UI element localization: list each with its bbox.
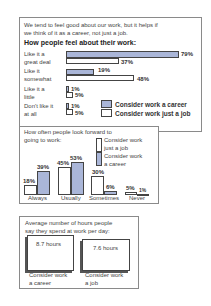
pct-sometimes-job: 30% [92, 169, 104, 176]
legend-career-swatch [101, 100, 112, 108]
hours-job-value: 7.6 hours [93, 245, 118, 252]
bar-great-deal-career [66, 51, 179, 58]
pct-little-job: 5% [75, 92, 84, 99]
pct-always-career: 39% [37, 164, 49, 171]
legend-career-label: Consider work a career [115, 101, 187, 108]
bar-usually-career [71, 162, 84, 195]
legend2-career-swatch [96, 152, 102, 166]
legend2-career-label-1: Consider work [104, 153, 142, 160]
hours-job-box [82, 239, 130, 271]
legend2-job-label-2: just a job [104, 145, 128, 152]
legend-job-swatch [101, 109, 112, 117]
pct-usually-career: 53% [70, 155, 82, 162]
legend2-job-label-1: Consider work [104, 137, 142, 144]
row3-label-1: Like it a [24, 86, 45, 93]
pct-usually-job: 45% [57, 160, 69, 167]
hours-career-value: 8.7 hours [36, 241, 61, 248]
intro-line-2: we think of it as a career, not just a j… [24, 30, 128, 37]
legend-job-label: Consider work just a job [115, 110, 190, 117]
row4-label-2: at all [24, 111, 37, 118]
panel3-title-2: say they spend at work per day: [25, 228, 110, 235]
label-always: Always [28, 195, 47, 202]
pct-great-deal-job: 37% [121, 59, 133, 66]
bar-somewhat-job [66, 75, 134, 81]
legend2-job-swatch [96, 138, 102, 152]
pct-always-job: 18% [23, 178, 35, 185]
hours-job-label-2: a job [85, 280, 98, 287]
intro-line-1: We tend to feel good about our work, but… [24, 22, 158, 29]
row2-label-1: Like it [24, 68, 40, 75]
pct-somewhat-job: 48% [137, 76, 149, 83]
row1-label-2: great deal [24, 59, 51, 66]
row2-label-2: somewhat [24, 76, 51, 83]
bar-sometimes-job [91, 176, 104, 195]
pct-not-at-all-job: 5% [75, 110, 84, 117]
row3-label-2: little [24, 94, 35, 101]
pct-great-deal-career: 79% [181, 51, 193, 58]
bar-not-at-all-job [66, 109, 73, 115]
hours-job-label-1: Consider work [85, 272, 123, 279]
panel2-title-1: How often people look forward to [24, 129, 112, 136]
bar-little-job [66, 92, 73, 98]
panel3-title-1: Average number of hours people [25, 220, 112, 227]
panel2-title-2: going to work: [24, 137, 61, 144]
label-sometimes: Sometimes [89, 195, 119, 202]
hours-career-label-1: Consider work [29, 272, 67, 279]
row4-label-1: Don't like it [24, 103, 53, 110]
row1-label-1: Like it a [24, 51, 45, 58]
pct-somewhat-career: 19% [98, 67, 110, 74]
pct-never-career: 1% [139, 187, 146, 194]
hours-career-label-2: a career [29, 280, 51, 287]
label-usually: Usually [61, 195, 81, 202]
pct-never-job: 5% [126, 185, 135, 192]
legend2-career-label-2: a career [104, 161, 126, 168]
bar-always-career [37, 171, 50, 195]
bar-great-deal-job [66, 58, 119, 64]
pct-sometimes-career: 6% [106, 184, 115, 191]
panel1-title: How people feel about their work: [24, 39, 136, 46]
label-never: Never [129, 195, 145, 202]
bar-usually-job [58, 167, 71, 195]
bar-always-job [24, 185, 37, 195]
